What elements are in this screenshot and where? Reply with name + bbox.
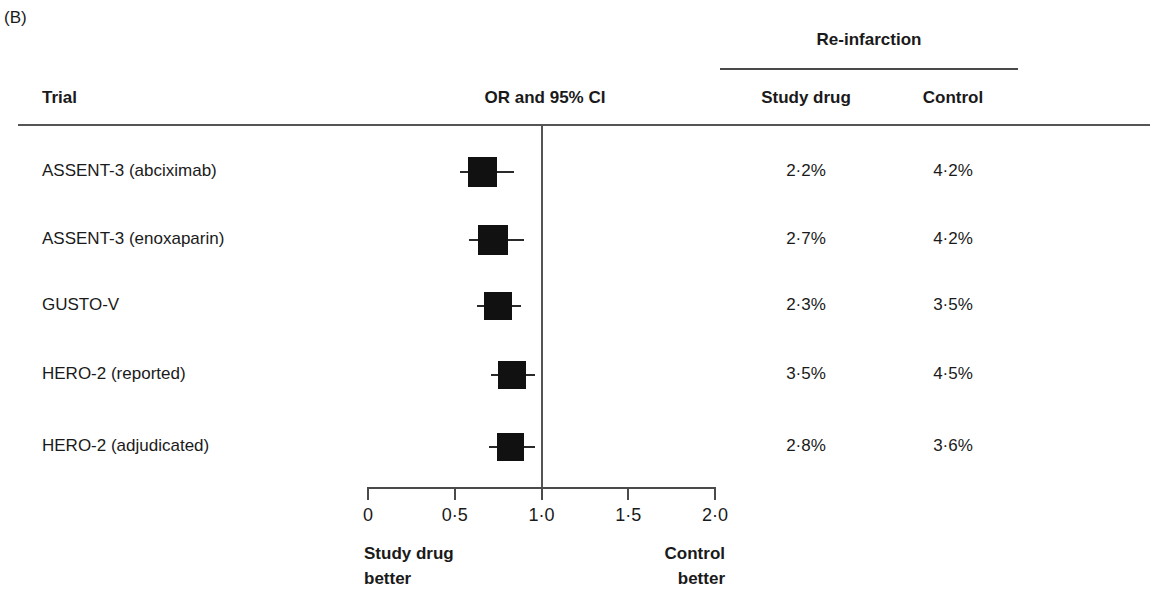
trial-label: HERO-2 (reported) [42,364,186,384]
panel-label: (B) [4,8,27,28]
odds-ratio-marker [484,292,512,320]
spanner-rule [720,68,1018,70]
x-axis-tick-label: 1·0 [507,505,577,526]
x-axis-tick [541,487,543,500]
x-axis-tick [367,487,369,500]
x-axis-tick [714,487,716,500]
x-axis-tick [454,487,456,500]
axis-note-left-line2: better [364,566,454,591]
control-percent: 4·5% [866,364,1040,384]
x-axis-tick-label: 1·5 [593,505,663,526]
axis-note-control-better: Control better [545,541,725,591]
control-percent: 4·2% [866,161,1040,181]
column-header-trial: Trial [42,88,77,108]
trial-label: ASSENT-3 (enoxaparin) [42,229,224,249]
spanner-header-re-infarction: Re-infarction [720,30,1018,50]
trial-label: GUSTO-V [42,295,119,315]
control-percent: 4·2% [866,229,1040,249]
forest-plot-figure: (B) Re-infarction Trial OR and 95% CI St… [0,0,1161,605]
control-percent: 3·6% [866,436,1040,456]
x-axis-tick-label: 0 [333,505,403,526]
odds-ratio-marker [497,433,524,460]
trial-label: ASSENT-3 (abciximab) [42,161,217,181]
odds-ratio-marker [498,361,527,390]
null-effect-line [541,126,543,488]
control-percent: 3·5% [866,295,1040,315]
odds-ratio-marker [478,225,508,255]
axis-note-right-line1: Control [545,541,725,566]
column-header-control: Control [866,88,1040,108]
x-axis-tick-label: 2·0 [680,505,750,526]
x-axis-tick-label: 0·5 [420,505,490,526]
column-header-or-ci: OR and 95% CI [380,88,710,108]
axis-note-right-line2: better [545,566,725,591]
x-axis-tick [627,487,629,500]
header-rule [18,124,1150,126]
trial-label: HERO-2 (adjudicated) [42,436,209,456]
axis-note-study-drug-better: Study drug better [364,541,454,591]
axis-note-left-line1: Study drug [364,541,454,566]
odds-ratio-marker [468,157,498,187]
